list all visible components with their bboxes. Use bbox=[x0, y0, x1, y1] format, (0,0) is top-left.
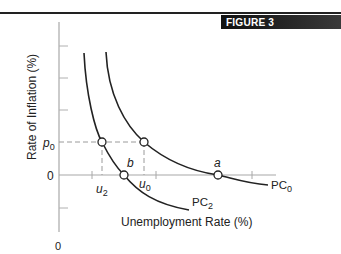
x-axis-title: Unemployment Rate (%) bbox=[121, 215, 252, 229]
pc0-label: PC0 bbox=[271, 179, 292, 194]
point-a-label: a bbox=[214, 156, 221, 170]
y-axis-title: Rate of Inflation (%) bbox=[25, 54, 39, 160]
u2-label: u2 bbox=[96, 182, 108, 198]
y-axis-ticks bbox=[59, 46, 68, 208]
pc2-label: PC2 bbox=[192, 196, 213, 211]
point-u0-p0 bbox=[140, 138, 148, 146]
zero-inflation-label: 0 bbox=[47, 169, 54, 183]
u0-label: u0 bbox=[139, 177, 151, 193]
point-b bbox=[120, 171, 128, 179]
phillips-curve-chart: p0 0 u2 u0 a b PC0 PC2 Unemployment Rate… bbox=[0, 0, 341, 254]
origin-label: 0 bbox=[55, 240, 61, 252]
point-a bbox=[214, 171, 222, 179]
point-u2-p0 bbox=[98, 138, 106, 146]
p0-label: p0 bbox=[42, 136, 55, 152]
point-b-label: b bbox=[127, 156, 134, 170]
